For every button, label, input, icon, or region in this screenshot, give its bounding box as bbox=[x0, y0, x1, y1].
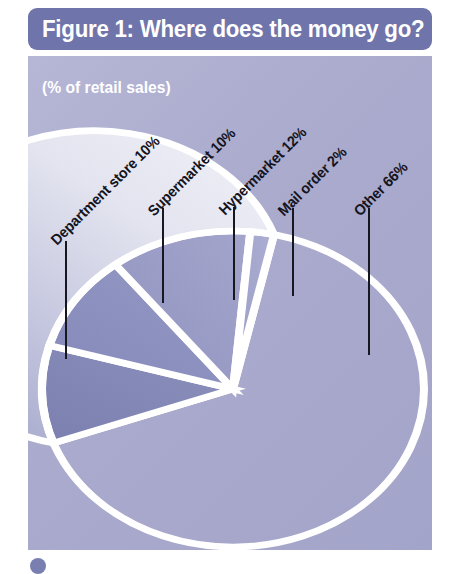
leader-line-hypermarket bbox=[233, 207, 235, 300]
chart-panel: (% of retail sales) bbox=[28, 56, 432, 550]
leader-line-mail-order bbox=[292, 208, 294, 296]
leader-line-department-store bbox=[65, 241, 67, 359]
figure-title-bar: Figure 1: Where does the money go? bbox=[28, 8, 432, 50]
leader-line-supermarket bbox=[162, 208, 164, 303]
page-title: Figure 1: Where does the money go? bbox=[42, 15, 424, 43]
leader-line-other bbox=[368, 208, 370, 355]
bullet-dot-icon bbox=[30, 558, 46, 574]
